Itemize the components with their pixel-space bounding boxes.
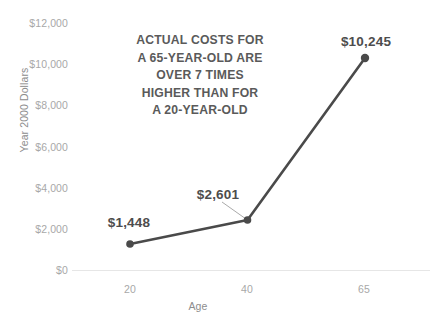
x-tick-label: 65 [358,283,370,295]
x-tick-label: 40 [241,283,253,295]
data-point-marker-age20 [126,240,134,248]
x-axis-title: Age [0,300,430,312]
x-axis-title-text: Age [189,300,208,312]
annotation-line: OVER 7 TIMES [112,67,288,85]
data-label-age65: $10,245 [341,34,391,49]
x-tick-label: 20 [124,283,136,295]
data-point-marker-age40 [244,216,252,224]
data-point-marker-age65 [361,54,369,62]
annotation-line: HIGHER THAN FOR [112,85,288,103]
annotation-line: A 20-YEAR-OLD [112,102,288,120]
annotation-line: ACTUAL COSTS FOR [112,32,288,50]
annotation-line: A 65-YEAR-OLD ARE [112,50,288,68]
data-label-age40: $2,601 [197,187,240,202]
leader-line-age40 [222,202,246,219]
chart-container: Year 2000 Dollars $12,000 $10,000 $8,000… [0,0,430,322]
annotation-callout: ACTUAL COSTS FOR A 65-YEAR-OLD ARE OVER … [112,32,288,120]
data-label-age20: $1,448 [108,215,151,230]
